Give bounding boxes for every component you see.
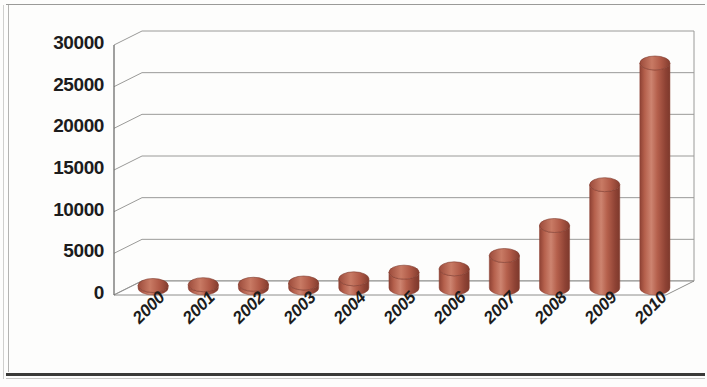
plot-area [0,0,707,387]
bar-2008 [539,219,569,295]
bars [138,56,670,295]
bar-2009 [590,178,620,295]
bar-2010 [640,56,670,295]
bar-chart: 300002500020000150001000050000 200020012… [0,0,707,387]
